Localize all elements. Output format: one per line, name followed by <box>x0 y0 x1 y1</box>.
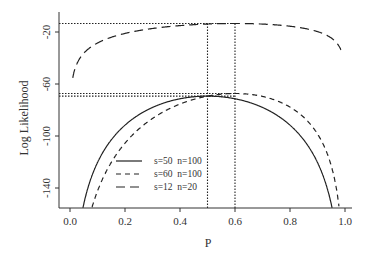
x-tick-label: 0.6 <box>228 215 242 227</box>
x-ticks: 0.00.20.40.60.81.0 <box>63 208 352 227</box>
y-tick-label: -60 <box>40 76 52 91</box>
x-axis-label: P <box>205 236 212 250</box>
y-axis-label: Log Likelihood <box>17 81 31 156</box>
log-likelihood-chart: -20-60-100-140 0.00.20.40.60.81.0 Log Li… <box>0 0 375 263</box>
y-ticks: -20-60-100-140 <box>40 24 59 198</box>
legend-label-3: s=12 n=20 <box>154 182 197 192</box>
series-line-long-dash <box>73 24 341 78</box>
y-tick-label: -100 <box>40 125 52 146</box>
plot-lines <box>59 24 341 209</box>
legend-label-1: s=50 n=100 <box>154 156 202 166</box>
series-line-solid <box>83 96 332 208</box>
legend-label-2: s=60 n=100 <box>154 169 202 179</box>
x-tick-label: 0.0 <box>63 215 77 227</box>
x-tick-label: 1.0 <box>338 215 352 227</box>
y-tick-label: -140 <box>40 177 52 198</box>
x-tick-label: 0.4 <box>173 215 187 227</box>
y-tick-label: -20 <box>40 24 52 39</box>
legend: s=50 n=100 s=60 n=100 s=12 n=20 <box>116 156 202 192</box>
series-line-short-dash <box>92 94 339 208</box>
x-tick-label: 0.2 <box>118 215 132 227</box>
x-tick-label: 0.8 <box>283 215 297 227</box>
